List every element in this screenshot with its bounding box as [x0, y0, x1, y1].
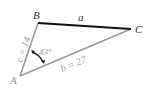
triangle-diagram: B C A a b = 27 c = 14 43°	[0, 0, 154, 91]
vertex-label-a: A	[9, 74, 17, 86]
angle-label-a: 43°	[39, 47, 52, 57]
vertex-label-c: C	[135, 23, 143, 35]
side-a	[38, 23, 131, 29]
side-b	[20, 29, 131, 76]
side-label-a: a	[78, 11, 84, 23]
side-label-b: b = 27	[59, 53, 89, 74]
vertex-label-b: B	[33, 9, 40, 21]
